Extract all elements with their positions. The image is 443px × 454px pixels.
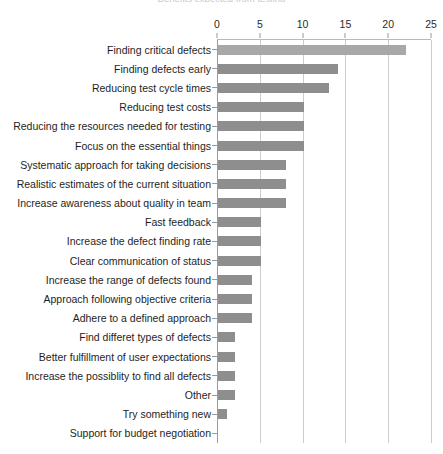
y-tick-mark — [212, 203, 217, 204]
category-label: Increase the range of defects found — [46, 274, 211, 286]
x-tick-label: 25 — [425, 18, 437, 30]
bar-row: Finding critical defects — [0, 40, 443, 59]
bar — [218, 83, 329, 93]
bar-row: Adhere to a defined approach — [0, 309, 443, 328]
y-tick-mark — [212, 337, 217, 338]
bar-row: Increase awareness about quality in team — [0, 194, 443, 213]
category-label: Systematic approach for taking decisions — [20, 159, 211, 171]
x-tick-mark — [302, 33, 303, 38]
y-tick-mark — [212, 107, 217, 108]
bar — [218, 236, 261, 246]
x-tick-label: 5 — [257, 18, 263, 30]
bar-row: Reducing the resources needed for testin… — [0, 117, 443, 136]
category-label: Focus on the essential things — [75, 140, 211, 152]
chart-title: Benefits expected from testing — [0, 0, 443, 2]
x-tick-label: 10 — [297, 18, 309, 30]
bar-row: Reducing test costs — [0, 98, 443, 117]
x-tick-label: 15 — [340, 18, 352, 30]
y-tick-mark — [212, 356, 217, 357]
category-label: Adhere to a defined approach — [73, 312, 211, 324]
bar-row: Increase the range of defects found — [0, 270, 443, 289]
bar — [218, 64, 338, 74]
bar — [218, 332, 235, 342]
x-axis-tick-labels: 0510152025 — [217, 18, 431, 32]
bar-row: Finding defects early — [0, 59, 443, 78]
bar — [218, 102, 304, 112]
bar — [218, 409, 227, 419]
y-tick-mark — [212, 414, 217, 415]
category-label: Try something new — [123, 408, 211, 420]
category-label: Approach following objective criteria — [43, 293, 211, 305]
y-tick-mark — [212, 164, 217, 165]
bar — [218, 121, 304, 131]
y-tick-mark — [212, 68, 217, 69]
y-tick-mark — [212, 145, 217, 146]
x-tick-mark — [217, 33, 218, 38]
bar-row: Find differet types of defects — [0, 328, 443, 347]
bar — [218, 352, 235, 362]
bar-row: Increase the defect finding rate — [0, 232, 443, 251]
bar-row: Other — [0, 385, 443, 404]
y-tick-mark — [212, 395, 217, 396]
bar — [218, 294, 252, 304]
x-tick-label: 20 — [382, 18, 394, 30]
y-tick-mark — [212, 222, 217, 223]
category-label: Increase the possiblity to find all defe… — [25, 370, 211, 382]
bar — [218, 256, 261, 266]
bar — [218, 45, 406, 55]
y-tick-mark — [212, 241, 217, 242]
bar-row: Reducing test cycle times — [0, 78, 443, 97]
category-label: Fast feedback — [145, 216, 211, 228]
category-label: Better fulfillment of user expectations — [39, 351, 211, 363]
category-label: Reducing test costs — [119, 101, 211, 113]
bar — [218, 275, 252, 285]
category-label: Increase awareness about quality in team — [17, 197, 211, 209]
x-tick-mark — [431, 33, 432, 38]
category-label: Finding critical defects — [107, 44, 211, 56]
category-label: Support for budget negotiation — [70, 427, 211, 439]
y-tick-mark — [212, 299, 217, 300]
y-tick-mark — [212, 433, 217, 434]
category-label: Reducing test cycle times — [92, 82, 211, 94]
x-tick-mark — [388, 33, 389, 38]
category-label: Increase the defect finding rate — [67, 235, 211, 247]
y-tick-mark — [212, 375, 217, 376]
bar-row: Fast feedback — [0, 213, 443, 232]
x-tick-label: 0 — [214, 18, 220, 30]
bar-row: Better fulfillment of user expectations — [0, 347, 443, 366]
category-label: Realistic estimates of the current situa… — [17, 178, 211, 190]
y-tick-mark — [212, 279, 217, 280]
y-tick-mark — [212, 260, 217, 261]
y-tick-mark — [212, 318, 217, 319]
category-label: Finding defects early — [114, 63, 211, 75]
category-label: Other — [185, 389, 211, 401]
category-label: Reducing the resources needed for testin… — [13, 120, 211, 132]
bar-row: Try something new — [0, 405, 443, 424]
y-tick-mark — [212, 49, 217, 50]
y-tick-mark — [212, 126, 217, 127]
bar-row: Systematic approach for taking decisions — [0, 155, 443, 174]
bar-row: Increase the possiblity to find all defe… — [0, 366, 443, 385]
bar — [218, 217, 261, 227]
bar — [218, 141, 304, 151]
bar-chart: Benefits expected from testing 051015202… — [0, 0, 443, 454]
bar — [218, 313, 252, 323]
y-tick-mark — [212, 183, 217, 184]
bar — [218, 371, 235, 381]
bar-row: Support for budget negotiation — [0, 424, 443, 443]
x-tick-mark — [345, 33, 346, 38]
x-tick-mark — [259, 33, 260, 38]
bar — [218, 390, 235, 400]
bar-rows: Finding critical defectsFinding defects … — [0, 40, 443, 443]
bar-row: Realistic estimates of the current situa… — [0, 174, 443, 193]
bar-row: Approach following objective criteria — [0, 289, 443, 308]
bar — [218, 160, 286, 170]
bar-row: Focus on the essential things — [0, 136, 443, 155]
category-label: Clear communication of status — [70, 255, 211, 267]
category-label: Find differet types of defects — [79, 331, 211, 343]
y-tick-mark — [212, 87, 217, 88]
bar-row: Clear communication of status — [0, 251, 443, 270]
bar — [218, 198, 286, 208]
bar — [218, 179, 286, 189]
